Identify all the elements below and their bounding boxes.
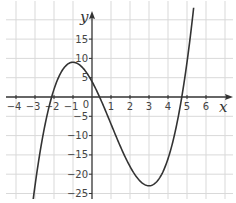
x-tick-label: 4 bbox=[165, 101, 171, 112]
x-axis-label: x bbox=[219, 98, 228, 116]
x-tick-label: 1 bbox=[108, 101, 114, 112]
y-tick-label: 10 bbox=[75, 53, 88, 64]
origin-label: 0 bbox=[83, 99, 89, 110]
x-tick-label: −3 bbox=[26, 101, 41, 112]
x-tick-label: −2 bbox=[45, 101, 60, 112]
y-axis-arrow-icon bbox=[89, 11, 95, 19]
y-tick-label: 15 bbox=[75, 34, 88, 45]
x-tick-label: 3 bbox=[146, 101, 152, 112]
y-tick-label: −10 bbox=[67, 130, 88, 141]
y-tick-label: −20 bbox=[67, 169, 88, 180]
x-tick-label: 6 bbox=[203, 101, 209, 112]
x-tick-label: −4 bbox=[7, 101, 22, 112]
x-tick-label: 5 bbox=[184, 101, 190, 112]
cubic-function-graph: −4−3−2−10123456−25−20−15−10−551015 x y bbox=[0, 0, 236, 203]
x-tick-label: 2 bbox=[127, 101, 133, 112]
y-tick-label: −15 bbox=[67, 149, 88, 160]
y-tick-label: −5 bbox=[73, 111, 88, 122]
y-axis-label: y bbox=[79, 8, 89, 26]
y-tick-label: −25 bbox=[67, 188, 88, 199]
grid-lines bbox=[6, 1, 233, 199]
